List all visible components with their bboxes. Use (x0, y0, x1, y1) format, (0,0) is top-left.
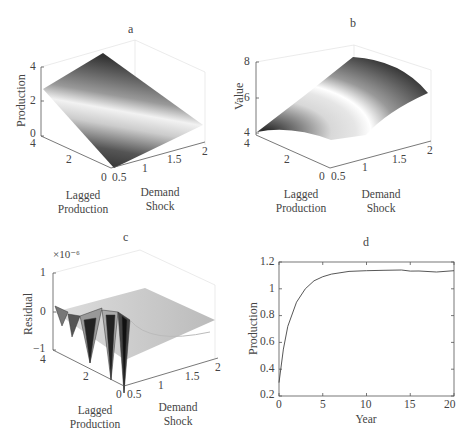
line-plot (236, 220, 472, 440)
shock-tick: 2 (202, 145, 208, 157)
y-tick: 1.2 (260, 255, 274, 267)
y-tick: 0.8 (260, 308, 274, 320)
shock-tick: 1.5 (392, 153, 406, 165)
x-tick: 20 (444, 398, 456, 410)
shock-tick: 0.5 (112, 171, 126, 183)
x-axis-label-lagged: LaggedProduction (48, 188, 118, 216)
shock-tick: 0.5 (127, 388, 141, 400)
x-tick: 0 (276, 398, 282, 410)
z-axis-label: Residual (21, 293, 36, 335)
x-axis-label-lagged: LaggedProduction (60, 403, 130, 431)
shock-tick: 2 (215, 361, 221, 373)
shock-tick: 0.5 (331, 170, 345, 182)
surface-plot (0, 0, 236, 220)
lagged-tick: 4 (244, 137, 250, 149)
shock-tick: 1.5 (167, 153, 181, 165)
shock-tick: 2 (427, 144, 433, 156)
shock-tick: 1 (158, 379, 164, 391)
y-tick: 0.6 (260, 335, 274, 347)
lagged-tick: 0 (319, 170, 325, 182)
lagged-tick: 2 (284, 153, 290, 165)
panel-d: d 1.2 1 0.8 0.6 0.4 0.2 0 5 10 15 20 Yea… (236, 220, 472, 440)
x-axis-label-lagged: LaggedProduction (266, 187, 336, 215)
x-tick: 10 (360, 398, 372, 410)
z-tick: 0 (40, 305, 46, 317)
lagged-tick: 2 (83, 370, 89, 382)
y-axis-label: Production (246, 302, 261, 355)
shock-tick: 1 (362, 161, 368, 173)
y-tick: 0.2 (260, 388, 274, 400)
y-axis-label-shock: DemandShock (148, 400, 208, 428)
x-tick: 5 (320, 398, 326, 410)
z-tick: 1 (40, 266, 46, 278)
shock-tick: 1.5 (185, 370, 199, 382)
panel-c: c ×10⁻⁶ (0, 220, 236, 440)
panel-b: b 8 6 (236, 0, 472, 220)
lagged-tick: 2 (66, 153, 72, 165)
panel-a: a 4 (0, 0, 236, 220)
x-tick: 15 (404, 398, 416, 410)
shock-tick: 1 (142, 162, 148, 174)
y-axis-label-shock: DemandShock (130, 185, 190, 213)
z-axis-label: Value (232, 83, 247, 110)
lagged-tick: 4 (30, 137, 36, 149)
lagged-tick: 0 (116, 388, 122, 400)
y-tick: 1 (269, 282, 275, 294)
y-tick: 0.4 (260, 362, 274, 374)
x-axis-label: Year (341, 412, 391, 426)
lagged-tick: 0 (101, 171, 107, 183)
z-tick: 8 (244, 55, 250, 67)
z-axis-label: Production (14, 74, 29, 127)
z-tick: 2 (30, 94, 36, 106)
lagged-tick: 4 (40, 353, 46, 365)
z-tick: 4 (30, 60, 36, 72)
y-axis-label-shock: DemandShock (351, 187, 411, 215)
